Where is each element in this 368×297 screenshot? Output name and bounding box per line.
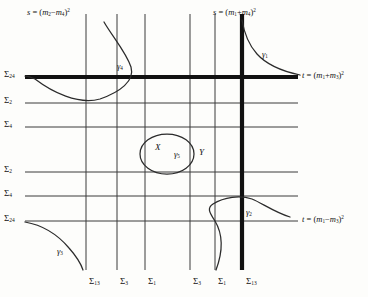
axis-label-top-right: s = (m1+m4)2 <box>213 8 256 17</box>
subscript: 4 <box>9 123 12 129</box>
left-label-sigma-4-lower: Σ4 <box>4 189 12 199</box>
figure-canvas <box>0 0 368 297</box>
subscript: 13 <box>94 280 99 286</box>
subscript: 4 <box>120 65 123 71</box>
subscript: 1 <box>153 280 156 286</box>
subscript: 24 <box>9 73 14 79</box>
subscript: 1 <box>265 53 268 59</box>
heavy-threshold-lines <box>25 14 298 270</box>
left-label-sigma-2-lower: Σ2 <box>4 165 12 175</box>
subscript: 2 <box>249 211 252 217</box>
axis-label-right-lower: t = (m1−m3)2 <box>302 215 344 224</box>
subscript: 1 <box>223 280 226 286</box>
thin-horizontal-lines <box>25 103 298 221</box>
subscript: 13 <box>251 280 256 286</box>
bottom-label-sigma-3-right: Σ3 <box>193 277 201 287</box>
subscript: 24 <box>9 217 14 223</box>
subscript: 3 <box>198 280 201 286</box>
subscript: 5 <box>177 153 180 159</box>
left-label-sigma-2: Σ2 <box>4 96 12 106</box>
operator: + <box>237 7 242 17</box>
region-label-y: Y <box>199 148 204 157</box>
left-label-sigma-4: Σ4 <box>4 120 12 130</box>
curve-gamma-3 <box>25 222 83 270</box>
bottom-label-sigma-3: Σ3 <box>120 277 128 287</box>
subscript: 3 <box>60 250 63 256</box>
curve-label-gamma-1: γ1 <box>262 50 268 59</box>
curve-gamma-4 <box>25 22 132 101</box>
curve-label-gamma-3: γ3 <box>57 247 63 256</box>
subscript: 2 <box>9 168 12 174</box>
thin-vertical-lines <box>86 14 215 270</box>
left-label-sigma-24-lower: Σ24 <box>4 214 15 224</box>
left-label-sigma-24: Σ24 <box>4 70 15 80</box>
axis-label-right-upper: t = (m1+m3)2 <box>302 71 344 80</box>
axis-label-top-left: s = (m2−m4)2 <box>27 8 70 17</box>
curve-label-gamma-4: γ4 <box>117 62 123 71</box>
curve-gamma-1 <box>242 20 300 75</box>
curve-gamma-5-ellipse <box>140 134 194 174</box>
curve-label-gamma-5: γ5 <box>174 150 180 159</box>
boundary-curves <box>25 20 300 270</box>
mandelstam-plane-figure: s = (m2−m4)2 s = (m1+m4)2 t = (m1+m3)2 t… <box>0 0 368 297</box>
subscript: 2 <box>9 99 12 105</box>
bottom-label-sigma-13: Σ13 <box>89 277 100 287</box>
operator: − <box>51 7 56 17</box>
subscript: 4 <box>9 192 12 198</box>
region-label-x: X <box>155 143 161 152</box>
curve-label-gamma-2: γ2 <box>246 208 252 217</box>
bottom-label-sigma-1: Σ1 <box>148 277 156 287</box>
bottom-label-sigma-1-right: Σ1 <box>218 277 226 287</box>
subscript: 3 <box>125 280 128 286</box>
bottom-label-sigma-13-right: Σ13 <box>246 277 257 287</box>
